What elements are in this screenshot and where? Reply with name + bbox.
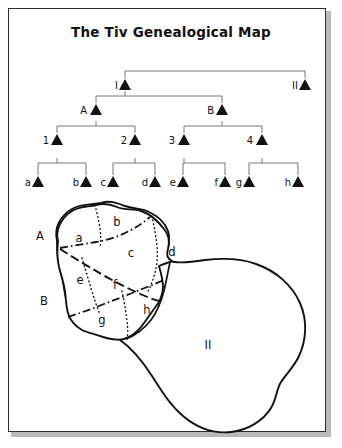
- figure-root: The Tiv Genealogical Map: [0, 0, 342, 448]
- map-region-label-A: A: [36, 229, 44, 243]
- map-subregion-label-a: a: [75, 231, 82, 245]
- map-subregion-label-h: h: [143, 303, 150, 317]
- tiv-territory-map: A B II a b c d e f g h: [0, 0, 342, 448]
- map-subregion-label-d: d: [168, 245, 175, 259]
- map-subregion-label-b: b: [113, 215, 120, 229]
- map-region-label-B: B: [40, 294, 48, 308]
- map-region-label-II: II: [205, 338, 212, 352]
- map-subregion-label-e: e: [76, 273, 83, 287]
- map-subregion-label-c: c: [128, 246, 134, 260]
- map-subregion-label-g: g: [98, 313, 105, 327]
